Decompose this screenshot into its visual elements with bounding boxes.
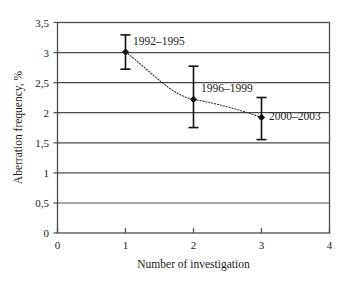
y-tick-label: 0 [44,227,50,239]
x-tick-label: 3 [259,239,265,251]
aberration-frequency-chart: 3,5 3 2,5 2 1,5 1 0,5 0 0 1 2 3 4 Number… [0,0,349,285]
x-tick-label: 2 [191,239,197,251]
y-axis-title: Aberration frequency, % [12,70,25,184]
point-label-2: 1996–1999 [201,82,253,94]
point-label-1: 1992–1995 [133,35,185,47]
y-tick-label: 2,5 [35,77,49,89]
x-axis-title: Number of investigation [137,258,250,271]
y-tick-label: 2 [44,107,50,119]
y-tick-label: 3,5 [35,17,49,29]
y-tick-label: 0,5 [35,197,49,209]
y-tick-label: 1 [44,167,50,179]
point-label-3: 2000–2003 [269,110,321,122]
y-tick-label: 1,5 [35,137,49,149]
x-tick-label: 1 [123,239,129,251]
y-tick-label: 3 [44,47,50,59]
x-tick-label: 4 [327,239,333,251]
chart-container: 3,5 3 2,5 2 1,5 1 0,5 0 0 1 2 3 4 Number… [0,0,349,285]
x-tick-label: 0 [55,239,61,251]
